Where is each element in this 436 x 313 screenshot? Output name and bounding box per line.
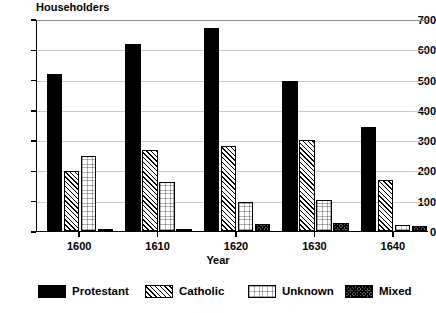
bar-catholic-1600	[64, 171, 80, 231]
bar-unknown-1620	[238, 202, 254, 231]
legend-swatch-unknown-icon	[248, 285, 276, 298]
bar-catholic-1640	[378, 180, 394, 231]
bar-mixed-1600	[98, 229, 114, 231]
bar-unknown-1600	[81, 156, 97, 231]
legend-item-catholic[interactable]: Catholic	[145, 283, 224, 299]
y-axis-title: Householders	[36, 1, 109, 13]
legend-label-protestant: Protestant	[72, 285, 129, 298]
bar-group-1640	[361, 20, 428, 231]
x-tick-label-1640: 1640	[381, 240, 405, 252]
bar-group-1620	[204, 20, 271, 231]
bar-unknown-1610	[159, 182, 175, 231]
bar-protestant-1620	[204, 28, 220, 231]
bar-group-1610	[125, 20, 192, 231]
bar-protestant-1630	[282, 81, 298, 231]
legend-swatch-catholic-icon	[145, 285, 173, 298]
bar-catholic-1630	[299, 140, 315, 231]
plot-inner	[37, 20, 428, 231]
bar-mixed-1620	[255, 224, 271, 231]
bar-protestant-1600	[47, 74, 63, 231]
legend-swatch-protestant-icon	[38, 285, 66, 298]
bar-protestant-1610	[125, 44, 141, 231]
bar-unknown-1630	[316, 200, 332, 231]
legend-label-mixed: Mixed	[379, 285, 412, 298]
bar-mixed-1640	[412, 226, 428, 231]
bar-chart: Householders 0100200300400500600700 1600…	[0, 0, 436, 313]
bar-protestant-1640	[361, 127, 377, 231]
legend-label-unknown: Unknown	[282, 285, 334, 298]
legend-label-catholic: Catholic	[179, 285, 224, 298]
bar-catholic-1620	[221, 146, 237, 231]
x-tick-label-1620: 1620	[224, 240, 248, 252]
bar-mixed-1630	[333, 223, 349, 231]
bar-unknown-1640	[395, 225, 411, 231]
x-tick-mark-1620	[235, 232, 237, 237]
x-axis-title: Year	[0, 254, 436, 266]
legend-item-protestant[interactable]: Protestant	[38, 283, 129, 299]
x-tick-mark-1610	[157, 232, 159, 237]
x-tick-label-1600: 1600	[67, 240, 91, 252]
legend-item-unknown[interactable]: Unknown	[248, 283, 334, 299]
x-tick-mark-1600	[78, 232, 80, 237]
legend-swatch-mixed-icon	[345, 285, 373, 298]
bar-mixed-1610	[176, 229, 192, 231]
bar-group-1600	[47, 20, 114, 231]
chart-legend: ProtestantCatholicUnknownMixed	[0, 283, 436, 305]
legend-item-mixed[interactable]: Mixed	[345, 283, 412, 299]
bar-group-1630	[282, 20, 349, 231]
plot-area	[36, 20, 428, 232]
x-tick-label-1630: 1630	[302, 240, 326, 252]
x-tick-label-1610: 1610	[145, 240, 169, 252]
bar-catholic-1610	[142, 150, 158, 231]
x-tick-mark-1630	[314, 232, 316, 237]
x-tick-mark-1640	[392, 232, 394, 237]
